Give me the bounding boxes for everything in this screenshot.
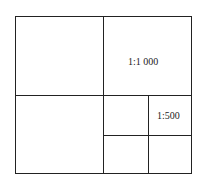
main-horizontal-divider (15, 95, 192, 96)
scale-label-500: 1:500 (157, 110, 180, 121)
sub-horizontal-divider (103, 135, 192, 136)
scale-label-1000: 1:1 000 (128, 56, 158, 67)
